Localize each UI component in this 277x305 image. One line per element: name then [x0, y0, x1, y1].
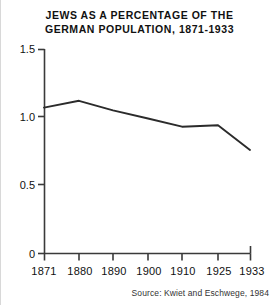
source-note: Source: Kwiet and Eschwege, 1984 — [132, 288, 269, 298]
plot-area — [1, 0, 277, 305]
x-tick-label-1933: 1933 — [239, 265, 264, 277]
chart-axes — [38, 49, 251, 254]
x-tick-label-1871: 1871 — [31, 265, 56, 277]
y-tick-label-1p0: 1.0 — [11, 111, 35, 123]
x-tick-label-1900: 1900 — [136, 265, 161, 277]
data-series-line — [44, 101, 250, 150]
x-tick-label-1890: 1890 — [101, 265, 126, 277]
chart-figure: JEWS AS A PERCENTAGE OF THE GERMAN POPUL… — [0, 0, 277, 305]
x-tick-label-1880: 1880 — [67, 265, 92, 277]
x-tick-marks — [45, 254, 251, 261]
x-tick-label-1925: 1925 — [206, 265, 231, 277]
y-tick-label-0p5: 0.5 — [11, 179, 35, 191]
x-tick-label-1910: 1910 — [170, 265, 195, 277]
y-tick-label-1p5: 1.5 — [11, 43, 35, 55]
y-tick-marks — [38, 117, 45, 254]
y-tick-label-0: 0 — [11, 248, 35, 260]
